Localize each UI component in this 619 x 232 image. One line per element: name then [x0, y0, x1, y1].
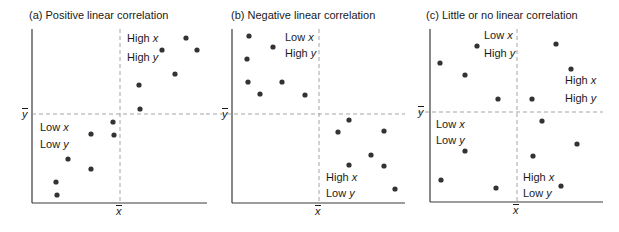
data-point: [270, 44, 275, 49]
x-mean-label: x: [513, 205, 519, 216]
data-point: [462, 148, 467, 153]
quadrant-label: Low x: [285, 31, 314, 43]
data-point: [302, 92, 307, 97]
data-point: [392, 186, 397, 191]
data-point: [335, 129, 340, 134]
quadrant-label: Low x: [484, 29, 513, 41]
y-mean-label: y: [222, 109, 228, 120]
data-point: [137, 106, 142, 111]
quadrant-label: High x: [565, 74, 596, 86]
data-point: [346, 162, 351, 167]
quadrant-label: High x: [326, 171, 357, 183]
data-point: [111, 132, 116, 137]
panel-title: (b) Negative linear correlation: [231, 9, 375, 21]
panel-title: (a) Positive linear correlation: [29, 9, 168, 21]
panel-positive: [32, 29, 207, 203]
x-mean-label: x: [315, 206, 321, 217]
data-point: [381, 128, 386, 133]
data-point: [159, 47, 164, 52]
quadrant-label: Low y: [326, 187, 355, 199]
quadrant-label: High x: [127, 32, 158, 44]
data-point: [183, 35, 188, 40]
quadrant-label: Low y: [40, 138, 69, 150]
data-point: [539, 118, 544, 123]
quadrant-label: Low x: [40, 121, 69, 133]
data-point: [246, 33, 251, 38]
quadrant-label: High y: [127, 51, 158, 63]
data-point: [245, 79, 250, 84]
data-point: [54, 192, 59, 197]
data-point: [279, 79, 284, 84]
data-point: [368, 152, 373, 157]
data-point: [257, 91, 262, 96]
data-point: [346, 117, 351, 122]
data-point: [53, 179, 58, 184]
data-point: [244, 56, 249, 61]
quadrant-label: High y: [565, 92, 596, 104]
data-point: [474, 43, 479, 48]
data-point: [574, 141, 579, 146]
data-point: [136, 82, 141, 87]
data-point: [88, 131, 93, 136]
data-point: [462, 72, 467, 77]
data-point: [88, 166, 93, 171]
data-point: [553, 41, 558, 46]
data-point: [568, 66, 573, 71]
data-point: [172, 71, 177, 76]
correlation-figure: (a) Positive linear correlationHigh xHig…: [0, 0, 619, 232]
data-point: [529, 96, 534, 101]
panel-title: (c) Little or no linear correlation: [426, 9, 578, 21]
data-point: [381, 163, 386, 168]
x-mean-label: x: [116, 206, 122, 217]
data-point: [438, 177, 443, 182]
data-point: [65, 156, 70, 161]
quadrant-label: Low y: [523, 187, 552, 199]
y-mean-label: y: [22, 109, 28, 120]
data-point: [530, 153, 535, 158]
data-point: [558, 183, 563, 188]
data-point: [437, 60, 442, 65]
quadrant-label: High y: [484, 47, 515, 59]
quadrant-label: High y: [285, 47, 316, 59]
data-point: [194, 47, 199, 52]
y-mean-label: y: [418, 107, 424, 118]
data-point: [110, 119, 115, 124]
data-point: [495, 96, 500, 101]
quadrant-label: Low y: [436, 134, 465, 146]
data-point: [493, 185, 498, 190]
quadrant-label: High x: [523, 171, 554, 183]
quadrant-label: Low x: [436, 118, 465, 130]
